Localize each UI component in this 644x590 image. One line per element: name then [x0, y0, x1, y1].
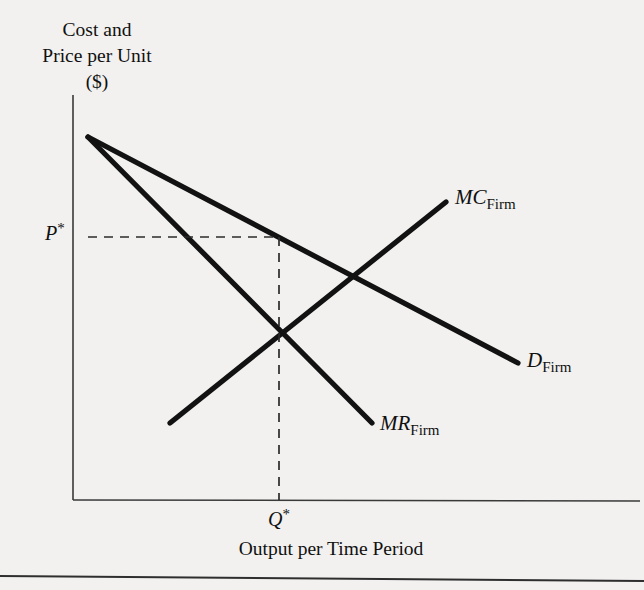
marginal-revenue-curve — [88, 137, 372, 423]
equilibrium-price-star: * — [57, 220, 65, 236]
demand-curve-label-name: D — [526, 348, 542, 372]
mr-curve-label-subscript: Firm — [410, 422, 440, 438]
mc-curve-label-name: MC — [454, 185, 487, 209]
mr-curve-label: MRFirm — [379, 411, 440, 438]
mc-curve-label: MCFirm — [454, 185, 516, 212]
bottom-divider-rule — [0, 576, 644, 581]
monopolistic-competition-diagram: Cost and Price per Unit ($) MCFirm DFirm… — [0, 0, 644, 590]
equilibrium-quantity-symbol: Q — [268, 508, 283, 530]
x-axis-label: Output per Time Period — [239, 538, 424, 559]
equilibrium-quantity-label: Q* — [268, 506, 290, 530]
equilibrium-price-symbol: P — [44, 222, 57, 244]
marginal-cost-curve — [170, 202, 446, 423]
y-axis-label-line-2: Price per Unit — [42, 45, 152, 66]
y-axis-label-line-1: Cost and — [63, 19, 132, 40]
demand-curve — [88, 137, 518, 363]
x-axis — [73, 500, 640, 501]
mc-curve-label-subscript: Firm — [487, 196, 517, 212]
demand-curve-label-subscript: Firm — [542, 359, 572, 375]
mr-curve-label-name: MR — [379, 411, 410, 435]
y-axis-label-line-3: ($) — [86, 71, 109, 93]
equilibrium-price-label: P* — [44, 220, 65, 244]
demand-curve-label: DFirm — [526, 348, 572, 375]
equilibrium-quantity-star: * — [282, 506, 290, 522]
